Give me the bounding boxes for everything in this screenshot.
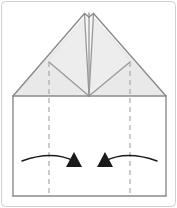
fold-diagram-container: Paper airplane fold step Fold the left a… <box>0 0 177 208</box>
body-panel <box>13 96 166 196</box>
origami-fold-diagram <box>0 0 177 208</box>
